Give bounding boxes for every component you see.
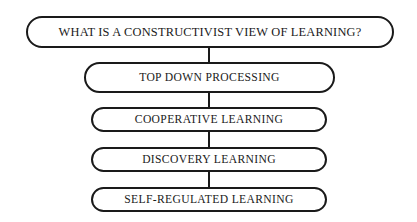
flowchart-node-label: TOP DOWN PROCESSING [139,72,280,84]
flowchart-node-discovery-learning: DISCOVERY LEARNING [91,147,327,172]
flowchart-connector-root-to-top-down [208,47,210,63]
flowchart-node-label: COOPERATIVE LEARNING [135,114,283,126]
flowchart-node-label: DISCOVERY LEARNING [142,154,276,166]
flowchart-node-root-question: WHAT IS A CONSTRUCTIVIST VIEW OF LEARNIN… [26,16,394,48]
flowchart-connector-top-down-to-cooperative [208,92,210,108]
flowchart-node-label: WHAT IS A CONSTRUCTIVIST VIEW OF LEARNIN… [59,26,362,38]
flowchart-node-label: SELF-REGULATED LEARNING [124,194,293,206]
flowchart-diagram: WHAT IS A CONSTRUCTIVIST VIEW OF LEARNIN… [0,0,417,222]
flowchart-node-top-down-processing: TOP DOWN PROCESSING [84,62,335,93]
flowchart-node-self-regulated-learning: SELF-REGULATED LEARNING [91,187,327,212]
flowchart-node-cooperative-learning: COOPERATIVE LEARNING [91,107,327,132]
flowchart-connector-cooperative-to-discovery [208,131,210,148]
flowchart-connector-discovery-to-self-regulated [208,171,210,188]
